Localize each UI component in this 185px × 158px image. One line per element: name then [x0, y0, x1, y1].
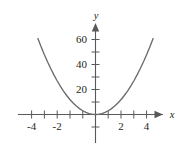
y-tick-label-20: 20: [76, 83, 88, 95]
y-tick-label-40: 40: [76, 58, 88, 70]
x-tick-label-minus-4: -4: [27, 120, 37, 132]
x-tick-label-4: 4: [144, 120, 150, 132]
x-tick-label-minus-2: -2: [53, 120, 62, 132]
x-axis-label: x: [169, 109, 175, 120]
x-tick-label-2: 2: [118, 120, 124, 132]
axis-label-layer: -4 -2 2 4 20 40 60 x y: [0, 0, 185, 158]
y-tick-label-60: 60: [76, 33, 88, 45]
y-axis-label: y: [93, 10, 99, 21]
parabola-graph-figure: -4 -2 2 4 20 40 60 x y: [0, 0, 185, 158]
